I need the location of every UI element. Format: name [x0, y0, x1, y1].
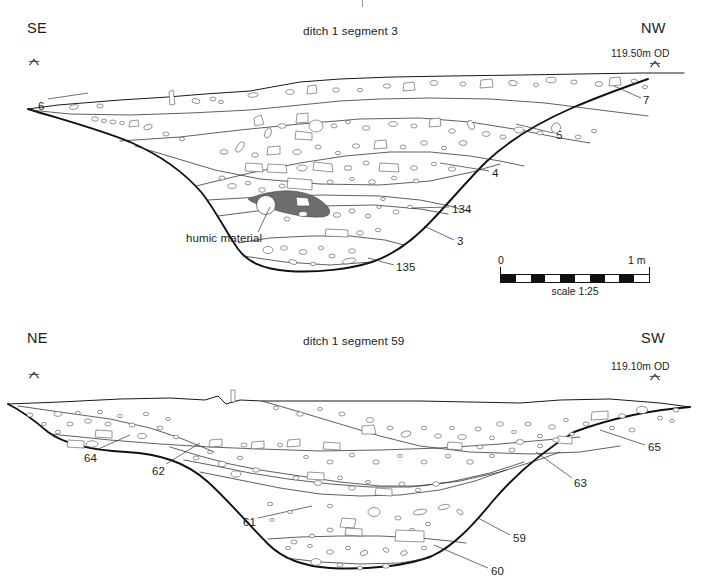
section-drawing-figure: SE ditch 1 segment 3 NW 119.50m OD 6 7 5… — [0, 0, 705, 583]
section2-stone-group-61 — [267, 502, 464, 538]
leader-61 — [258, 506, 312, 518]
section1-datum-arrow-left-icon — [29, 59, 39, 65]
section2-fill-interface-65 — [262, 401, 620, 454]
humic-lens-stone-2 — [296, 197, 310, 206]
leader-7 — [614, 86, 641, 98]
section1-ditch-cut — [28, 79, 648, 272]
section2-fill-interface-64 — [18, 406, 214, 452]
section2-datum-arrow-left-icon — [29, 372, 39, 378]
section1-fill-interface-6 — [30, 98, 648, 116]
section2-stone-group-64 — [27, 410, 179, 448]
section2-ground-surface — [8, 396, 690, 407]
humic-lens-stone — [257, 196, 276, 215]
section1-datum-arrow-right-icon — [650, 61, 660, 67]
leader-65 — [600, 430, 645, 445]
section1-fill-interface-135 — [238, 236, 404, 245]
section2-fill-interface-64b — [50, 434, 580, 451]
section1-drawing — [28, 73, 684, 272]
section2-drawing — [8, 390, 690, 570]
section1-stone-group-5 — [254, 113, 597, 140]
section1-stone-group-6 — [92, 117, 185, 141]
leader-3 — [424, 226, 454, 240]
section1-fill-interface-4b — [208, 195, 470, 212]
section1-stone-group-4 — [220, 140, 467, 190]
section2-fill-interface-61 — [268, 536, 466, 543]
section1-ground-surface — [28, 73, 684, 109]
section-drawing-canvas: .cut { fill:none; stroke:#111111; stroke… — [0, 0, 705, 583]
leader-59 — [478, 518, 510, 535]
section2-datum-arrow-right-icon — [650, 374, 660, 380]
section2-upright-surface-stone — [231, 390, 235, 402]
section2-ditch-cut — [8, 404, 690, 569]
leader-63 — [536, 452, 572, 478]
leader-62 — [166, 443, 200, 464]
leader-60 — [434, 545, 488, 568]
leader-6 — [48, 93, 88, 99]
section1-stone-group-135 — [263, 246, 356, 266]
